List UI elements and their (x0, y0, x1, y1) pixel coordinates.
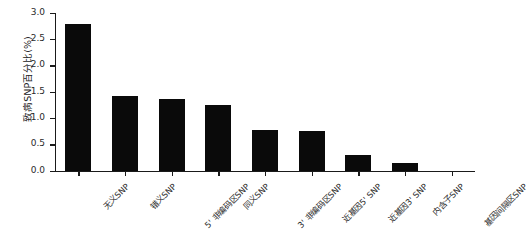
y-axis-tick-label: 1.0 (31, 112, 45, 122)
y-axis-tick-label: 0.0 (31, 165, 45, 175)
plot-area: 0.00.51.01.52.02.53.0 (55, 14, 475, 172)
y-axis-tick-label: 2.5 (31, 33, 45, 43)
y-axis-tick-inner (50, 39, 55, 40)
x-axis-label-group: 无义SNP错义SNP5' 非编码区SNP同义SNP3' 非编码区SNP近基因5'… (0, 176, 486, 249)
bar (65, 24, 91, 170)
x-axis-tick-label: 基因间隔区SNP (480, 180, 529, 229)
y-axis-tick: 3.0 (50, 13, 56, 14)
y-axis-tick-inner (50, 144, 55, 145)
bar (345, 155, 371, 171)
bar (205, 105, 231, 171)
y-axis-tick: 0.5 (50, 144, 56, 145)
x-axis-tick-label: 近基因3' SNP (385, 180, 430, 225)
y-axis-tick-label: 2.0 (31, 59, 45, 69)
y-axis-title: 致病SNP百分比(%) (20, 4, 34, 154)
y-axis-tick-inner (50, 13, 55, 14)
x-axis-tick-label: 近基因5' SNP (339, 180, 384, 225)
y-axis-tick: 0.0 (50, 171, 56, 172)
bar (252, 130, 278, 171)
y-axis-tick-inner (50, 65, 55, 66)
y-axis-line (55, 14, 56, 172)
y-axis-tick-inner (50, 118, 55, 119)
y-axis-tick-inner (50, 92, 55, 93)
y-axis-tick-label: 0.5 (31, 138, 45, 148)
x-axis-tick-label: 3' 非编码区SNP (294, 180, 344, 230)
y-axis-tick-inner (50, 171, 55, 172)
y-axis-tick: 2.0 (50, 65, 56, 66)
x-axis-tick-label: 错义SNP (147, 180, 179, 212)
bar (392, 163, 418, 171)
x-axis-tick-label: 无义SNP (100, 180, 132, 212)
y-axis-tick: 1.5 (50, 92, 56, 93)
x-axis-tick-label: 内含子SNP (429, 180, 466, 217)
bar (299, 131, 325, 171)
bar (159, 99, 185, 171)
y-axis-tick: 2.5 (50, 39, 56, 40)
bar (112, 96, 138, 171)
y-axis-tick-label: 1.5 (31, 86, 45, 96)
y-axis-tick-label: 3.0 (31, 7, 45, 17)
y-axis-tick: 1.0 (50, 118, 56, 119)
